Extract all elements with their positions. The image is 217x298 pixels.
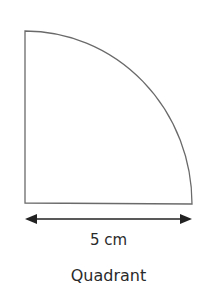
quadrant-shape: [25, 31, 192, 204]
quadrant-diagram: [0, 0, 217, 298]
dimension-arrow: [25, 214, 192, 224]
shape-caption: Quadrant: [0, 266, 217, 285]
radius-label: 5 cm: [0, 231, 217, 249]
